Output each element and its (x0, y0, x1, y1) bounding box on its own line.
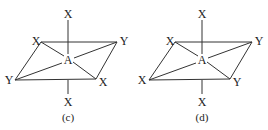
label-bottom-right: X (99, 75, 108, 89)
label-center: A (198, 53, 207, 67)
bond-a-top-left (175, 42, 198, 56)
bond-a-top-right (74, 42, 117, 58)
label-top-right: Y (255, 34, 264, 48)
label-bottom-right: Y (233, 75, 242, 89)
label-top-left: X (32, 34, 41, 48)
label-top-left: X (166, 34, 175, 48)
bond-a-bottom-left (15, 63, 62, 80)
label-center: A (64, 53, 73, 67)
label-top-right: Y (120, 34, 129, 48)
caption: (c) (62, 111, 75, 124)
label-bottom: X (64, 95, 73, 109)
label-bottom-left: X (138, 73, 147, 87)
label-top: X (64, 7, 73, 21)
bond-a-bottom-left (149, 63, 196, 80)
diagram-d: X X A X Y X Y (d) (138, 7, 264, 124)
bond-a-top-left (41, 42, 64, 56)
label-bottom-left: Y (5, 73, 14, 87)
figure: X X A X Y Y X (c) X X A X Y X Y (d) (0, 0, 268, 130)
label-top: X (198, 7, 207, 21)
bond-a-bottom-right (73, 62, 96, 79)
bond-a-bottom-right (207, 62, 230, 79)
bond-a-top-right (208, 42, 252, 58)
diagram-c: X X A X Y Y X (c) (5, 7, 129, 124)
caption: (d) (196, 111, 209, 124)
label-bottom: X (198, 95, 207, 109)
